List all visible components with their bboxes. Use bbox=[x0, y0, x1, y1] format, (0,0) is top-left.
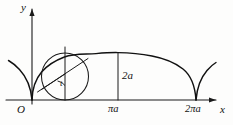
height-label-2a: 2a bbox=[122, 70, 133, 81]
y-axis-label: y bbox=[21, 2, 26, 13]
x-tick-label-two-pi-a: 2πa bbox=[185, 104, 201, 115]
x-axis-arrowhead bbox=[209, 97, 216, 102]
cycloid-arch-group bbox=[32, 53, 196, 100]
axes-group bbox=[6, 9, 216, 104]
next-arch-group bbox=[196, 63, 216, 101]
cycloid-figure: y x O πa 2πa 2a t bbox=[0, 0, 233, 125]
origin-label: O bbox=[17, 104, 25, 115]
previous-arch-path bbox=[9, 61, 33, 101]
angle-label-t: t bbox=[60, 79, 63, 88]
previous-arch-group bbox=[9, 61, 33, 101]
y-axis-arrowhead bbox=[29, 9, 34, 16]
x-axis-label: x bbox=[220, 104, 225, 115]
cycloid-arch-path bbox=[32, 53, 196, 100]
x-tick-label-pi-a: πa bbox=[108, 104, 119, 115]
next-arch-path bbox=[196, 63, 216, 101]
